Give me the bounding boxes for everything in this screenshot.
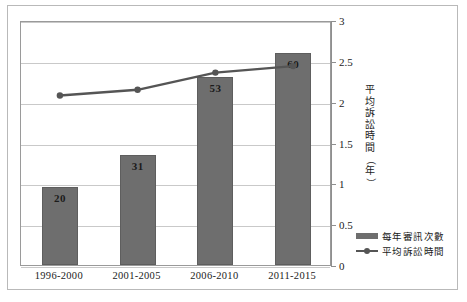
- legend-item-line: 平均訴訟時間: [356, 243, 444, 258]
- plot-area: 20315360: [20, 21, 331, 266]
- legend-item-label: 平均訴訟時間: [382, 244, 444, 258]
- y-tick-label: 0: [339, 260, 345, 272]
- legend-line-marker-icon: [356, 247, 378, 254]
- y-axis-title-char: 訴: [362, 107, 378, 119]
- y-tick-mark: [331, 21, 336, 22]
- legend-item-label: 每年審訊次數: [382, 229, 444, 243]
- bar: 60: [275, 53, 311, 265]
- y-tick-label: 1: [339, 178, 345, 190]
- legend-bar-swatch-icon: [356, 233, 378, 239]
- y-axis-title-char: 均: [362, 96, 378, 108]
- y-tick-label: 2: [339, 97, 345, 109]
- x-axis-label: 1996-2000: [35, 270, 83, 281]
- y-axis-title-char: ）: [364, 175, 376, 191]
- x-axis-label: 2001-2005: [113, 270, 161, 281]
- y-axis-title-char: 平: [362, 84, 378, 96]
- gridline: [21, 22, 330, 23]
- y-tick-mark: [331, 225, 336, 226]
- y-tick-label: 2.5: [339, 56, 353, 68]
- y-axis-title: 平均訴訟時間（年）: [362, 84, 378, 188]
- y-tick-mark: [331, 144, 336, 145]
- bar: 31: [120, 155, 156, 265]
- y-tick-mark: [331, 184, 336, 185]
- x-axis-label: 2006-2010: [190, 270, 238, 281]
- chart-figure: 20315360 00.511.522.53 1996-20002001-200…: [0, 0, 467, 302]
- y-tick-label: 0.5: [339, 219, 353, 231]
- y-tick-mark: [331, 62, 336, 63]
- x-axis-label: 2011-2015: [268, 270, 316, 281]
- y-tick-mark: [331, 103, 336, 104]
- legend-item-bar: 每年審訊次數: [356, 228, 444, 243]
- bar: 20: [42, 187, 78, 265]
- y-tick-label: 3: [339, 15, 345, 27]
- y-tick-mark: [331, 266, 336, 267]
- y-axis-title-char: 時: [362, 130, 378, 142]
- gridline: [21, 267, 330, 268]
- chart-legend: 每年審訊次數 平均訴訟時間: [356, 228, 444, 258]
- bar-value-label: 53: [198, 82, 232, 94]
- line-marker: [212, 69, 218, 75]
- bar: 53: [197, 77, 233, 265]
- y-tick-label: 1.5: [339, 138, 353, 150]
- y-axis-title-char: 訟: [362, 119, 378, 131]
- line-marker: [134, 87, 140, 93]
- line-marker: [57, 92, 63, 98]
- bar-value-label: 60: [276, 58, 310, 70]
- y-axis-title-char: （: [364, 151, 376, 167]
- bar-value-label: 31: [121, 160, 155, 172]
- bar-value-label: 20: [43, 192, 77, 204]
